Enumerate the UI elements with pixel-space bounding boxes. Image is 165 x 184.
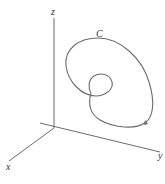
space-curve-figure: z C y x (0, 0, 165, 184)
y-axis (40, 123, 160, 152)
curve-c (66, 38, 153, 127)
curve-label: C (96, 28, 103, 39)
cut-off-caption (0, 178, 165, 184)
x-axis-label: x (5, 161, 11, 172)
x-axis (9, 128, 54, 161)
figure-canvas: z C y x (0, 0, 165, 184)
z-axis-label: z (50, 6, 55, 17)
y-axis-label: y (157, 150, 163, 161)
